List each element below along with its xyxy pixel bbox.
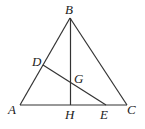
label-h: H (64, 107, 75, 122)
label-b: B (65, 2, 73, 17)
segment-bc (70, 18, 127, 105)
label-g: G (74, 71, 84, 86)
label-e: E (99, 107, 108, 122)
label-a: A (7, 102, 16, 117)
label-d: D (31, 54, 42, 69)
label-c: C (127, 102, 136, 117)
geometry-figure: B A C D G H E (0, 0, 145, 129)
segment-ab (20, 18, 70, 105)
